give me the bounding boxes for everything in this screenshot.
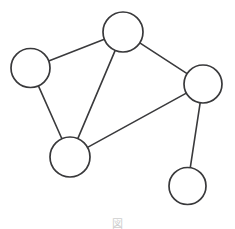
graph-edge	[140, 43, 187, 74]
graph-edge	[38, 86, 61, 139]
graph-node	[103, 12, 143, 52]
figure-caption: 図	[0, 218, 235, 229]
graph-edge	[78, 50, 115, 138]
graph-canvas	[0, 0, 235, 229]
graph-node	[184, 65, 222, 103]
graph-node	[169, 168, 206, 205]
graph-diagram-figure: 図	[0, 0, 235, 229]
graph-edge	[190, 103, 200, 168]
graph-edge	[88, 93, 187, 147]
graph-node	[11, 49, 50, 88]
graph-node	[50, 137, 90, 177]
node-layer	[11, 12, 222, 205]
graph-edge	[49, 39, 105, 61]
